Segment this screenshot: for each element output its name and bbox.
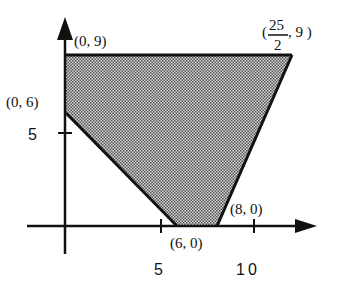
svg-text:2: 2 (274, 37, 282, 53)
svg-text:25: 25 (269, 17, 284, 33)
diagram: 5 10 5 (0, 9) (0, 6) (6, 0) (8, 0) ( 25 … (0, 0, 355, 291)
x-axis-arrow-icon (295, 219, 317, 233)
vertex-label-25-2-9: ( 25 2 , 9 ) (262, 17, 312, 53)
vertex-label-0-9: (0, 9) (74, 33, 107, 50)
svg-text:(: ( (262, 24, 267, 41)
x-tick-label-10: 10 (236, 261, 260, 278)
vertex-label-8-0: (8, 0) (230, 201, 263, 218)
vertex-label-0-6: (0, 6) (6, 94, 39, 111)
y-tick-label-5: 5 (28, 126, 37, 143)
vertex-label-6-0: (6, 0) (170, 235, 203, 252)
svg-text:, 9 ): , 9 ) (288, 24, 312, 41)
x-tick-label-5: 5 (154, 261, 163, 278)
y-axis-arrow-icon (57, 17, 73, 40)
y-axis (57, 17, 73, 254)
